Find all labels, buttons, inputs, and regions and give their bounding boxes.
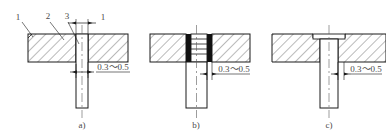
figure-b-adhesive-left bbox=[186, 34, 191, 62]
figure-b-right-plate bbox=[212, 34, 250, 62]
figure-b: 0.3～0.5 b) bbox=[150, 25, 250, 130]
figure-a: 1 0.3～0.5 1 2 3 a) bbox=[16, 11, 130, 130]
figure-a-top-dimension-label: 1 bbox=[101, 12, 106, 22]
figure-a-right-plate bbox=[88, 34, 128, 62]
figure-c-gap-dimension-label: 0.3～0.5 bbox=[350, 64, 382, 74]
callout-1-label: 1 bbox=[16, 12, 21, 22]
figure-a-top-dimension: 1 bbox=[68, 12, 105, 33]
figure-a-caption: a) bbox=[79, 120, 86, 130]
figure-b-gap-dimension: 0.3～0.5 bbox=[200, 62, 250, 80]
figure-a-gap-dimension-label: 0.3～0.5 bbox=[97, 62, 129, 72]
figure-b-adhesive-right bbox=[207, 34, 212, 62]
figure-c: 0.3～0.5 c) bbox=[272, 25, 386, 130]
callout-3-label: 3 bbox=[65, 11, 70, 21]
figure-b-caption: b) bbox=[192, 120, 200, 130]
engineering-drawing-sheet: 1 0.3～0.5 1 2 3 a) bbox=[0, 0, 386, 138]
figure-b-gap-dimension-label: 0.3～0.5 bbox=[218, 64, 250, 74]
drawing-canvas: 1 0.3～0.5 1 2 3 a) bbox=[0, 0, 386, 138]
callout-1: 1 bbox=[16, 12, 33, 37]
figure-b-left-plate bbox=[150, 34, 186, 62]
callout-2-label: 2 bbox=[46, 11, 51, 21]
figure-b-pin-knurl bbox=[191, 34, 207, 62]
figure-c-caption: c) bbox=[326, 120, 333, 130]
figure-a-left-plate bbox=[28, 34, 76, 62]
figure-c-gap-dimension: 0.3～0.5 bbox=[331, 62, 382, 80]
